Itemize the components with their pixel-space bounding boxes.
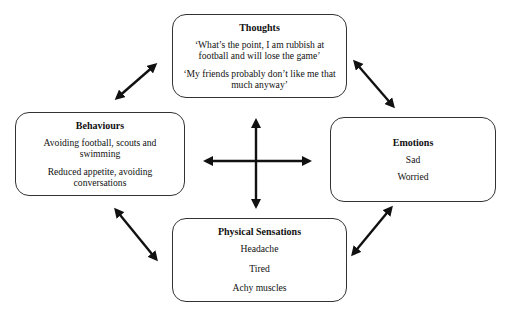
emotions-box: Emotions Sad Worried — [330, 117, 496, 202]
thoughts-item: ‘What’s the point, I am rubbish at footb… — [179, 39, 340, 62]
arrow-physical-emotions — [353, 208, 391, 254]
physical-item: Achy muscles — [232, 282, 286, 294]
physical-sensations-title: Physical Sensations — [218, 226, 301, 237]
behaviours-box: Behaviours Avoiding football, scouts and… — [15, 112, 185, 196]
thoughts-box: Thoughts ‘What’s the point, I am rubbish… — [172, 14, 347, 98]
behaviours-title: Behaviours — [76, 120, 124, 131]
behaviours-item: Avoiding football, scouts and swimming — [34, 137, 166, 160]
emotions-item: Sad — [406, 154, 420, 166]
emotions-title: Emotions — [393, 137, 434, 148]
arrow-thoughts-emotions — [355, 62, 393, 106]
arrow-behaviours-physical — [116, 210, 156, 259]
behaviours-item: Reduced appetite, avoiding conversations — [40, 166, 160, 189]
physical-item: Headache — [241, 243, 279, 255]
thoughts-title: Thoughts — [239, 22, 280, 33]
thoughts-item: ‘My friends probably don’t like me that … — [179, 68, 340, 91]
physical-sensations-box: Physical Sensations Headache Tired Achy … — [172, 218, 347, 302]
physical-item: Tired — [249, 263, 269, 275]
arrow-behaviours-thoughts — [117, 65, 155, 98]
emotions-item: Worried — [397, 171, 428, 183]
